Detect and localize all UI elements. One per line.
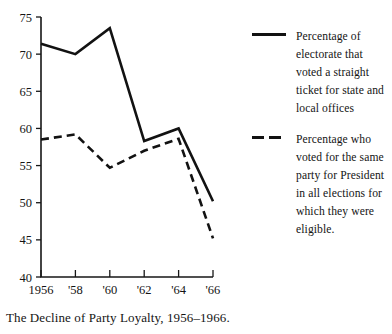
x-tick-label-66: '66	[206, 283, 221, 297]
x-tick-label-64: '64	[171, 283, 187, 297]
series-line-same-party-president	[41, 134, 213, 238]
x-tick-label-58: '58	[68, 283, 83, 297]
x-tick-label-1956: 1956	[29, 283, 54, 297]
x-tick-label-60: '60	[102, 283, 117, 297]
y-tick-label-70: 70	[20, 48, 33, 62]
y-tick-label-45: 45	[20, 233, 33, 247]
legend-label-same-party-president: Percentage who voted for the same party …	[296, 133, 384, 236]
chart-legend: Percentage of electorate that voted a st…	[252, 26, 392, 250]
y-tick-label-65: 65	[20, 85, 33, 99]
y-tick-label-50: 50	[20, 196, 33, 210]
series-line-straight-ticket	[41, 28, 213, 201]
legend-line-dashed-icon	[252, 136, 286, 139]
y-axis-tick-labels: 7570656055504540	[20, 11, 33, 285]
figure-caption: The Decline of Party Loyalty, 1956–1966.	[6, 310, 230, 326]
x-tick-label-62: '62	[137, 283, 152, 297]
y-tick-label-75: 75	[20, 11, 33, 25]
legend-entry-straight-ticket: Percentage of electorate that voted a st…	[252, 26, 392, 116]
data-series-group	[41, 28, 213, 238]
legend-entry-same-party-president: Percentage who voted for the same party …	[252, 129, 392, 237]
figure-party-loyalty: 7570656055504540 1956'58'60'62'64'66 Per…	[0, 0, 392, 334]
y-tick-label-55: 55	[20, 159, 33, 173]
legend-label-straight-ticket: Percentage of electorate that voted a st…	[296, 30, 384, 115]
legend-line-solid-icon	[252, 33, 286, 36]
y-tick-label-60: 60	[20, 122, 33, 136]
x-axis-ticks	[41, 270, 213, 277]
x-axis-tick-labels: 1956'58'60'62'64'66	[29, 283, 221, 297]
